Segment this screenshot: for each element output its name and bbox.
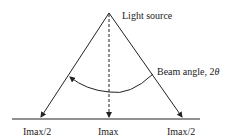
beam-angle-text: Beam angle, 2 <box>157 66 214 77</box>
left-intensity-label: Imax/2 <box>23 127 51 137</box>
light-source-label: Light source <box>122 11 172 21</box>
center-intensity-label: Imax <box>98 127 119 137</box>
beam-angle-diagram: Light source Beam angle, 2θ Imax/2 Imax … <box>0 0 239 140</box>
right-beam-arrow <box>109 13 182 117</box>
left-beam-arrow <box>41 13 109 117</box>
right-intensity-label: Imax/2 <box>167 127 195 137</box>
beam-angle-arc <box>70 74 153 93</box>
theta-symbol: θ <box>214 66 219 77</box>
beam-angle-label: Beam angle, 2θ <box>157 67 219 77</box>
